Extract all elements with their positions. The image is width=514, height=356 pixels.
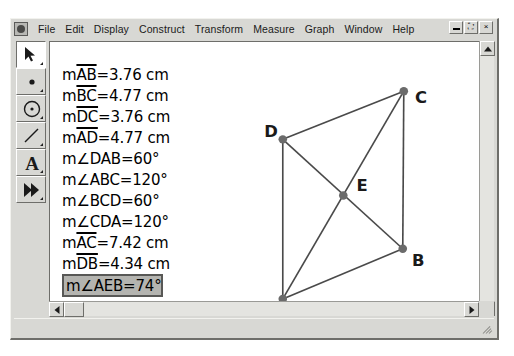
label-e[interactable]: E bbox=[357, 176, 368, 195]
point-e[interactable] bbox=[339, 191, 348, 199]
measure-object: CDA bbox=[90, 213, 121, 231]
point-b[interactable] bbox=[398, 245, 407, 253]
segment-ab[interactable] bbox=[283, 249, 403, 299]
measure-value: 3.76 cm bbox=[109, 66, 169, 84]
measure-value: 74° bbox=[135, 277, 161, 295]
tool-expand-corner-icon bbox=[40, 89, 43, 92]
menu-window[interactable]: Window bbox=[339, 22, 387, 36]
measurement-bc[interactable]: mBC = 4.77 cm bbox=[62, 85, 227, 106]
measure-prefix: m bbox=[62, 66, 76, 84]
vertical-scrollbar[interactable] bbox=[479, 41, 494, 316]
measurement-dc[interactable]: mDC = 3.76 cm bbox=[62, 106, 227, 127]
tool-expand-corner-icon bbox=[40, 143, 43, 146]
measure-prefix: m bbox=[66, 277, 80, 295]
measurement-dab[interactable]: m∠DAB = 60° bbox=[62, 148, 227, 169]
scroll-up-button[interactable] bbox=[480, 41, 495, 56]
sketchpad-app-icon[interactable] bbox=[14, 22, 28, 36]
equals-sign: = bbox=[97, 234, 109, 252]
measurement-bcd[interactable]: m∠BCD = 60° bbox=[62, 190, 227, 211]
minimize-button[interactable] bbox=[449, 21, 463, 34]
measure-value: 4.77 cm bbox=[110, 129, 170, 147]
resize-grip[interactable] bbox=[480, 321, 493, 334]
measure-object: AD bbox=[76, 129, 97, 147]
menu-bar: FileEditDisplayConstructTransformMeasure… bbox=[11, 19, 497, 38]
scroll-left-button[interactable] bbox=[49, 302, 64, 317]
equals-sign: = bbox=[123, 277, 135, 295]
menu-file[interactable]: File bbox=[33, 22, 60, 36]
equals-sign: = bbox=[121, 213, 133, 231]
scroll-up-arrow-icon bbox=[484, 46, 492, 51]
window-controls: ⛶ × bbox=[449, 21, 493, 34]
segment-bc[interactable] bbox=[403, 91, 404, 249]
sketch-canvas-area[interactable]: ABCDE mAB = 3.76 cmmBC = 4.77 cmmDC = 3.… bbox=[49, 41, 494, 316]
horizontal-scrollbar[interactable] bbox=[49, 301, 479, 316]
scroll-right-button[interactable] bbox=[464, 302, 479, 317]
custom-tool[interactable] bbox=[16, 176, 46, 203]
measure-prefix: m bbox=[62, 171, 76, 189]
segment-cd[interactable] bbox=[283, 91, 404, 139]
point-tool[interactable] bbox=[16, 68, 46, 95]
measurement-ab[interactable]: mAB = 3.76 cm bbox=[62, 64, 227, 85]
measure-value: 4.77 cm bbox=[109, 87, 169, 105]
measurement-ad[interactable]: mAD = 4.77 cm bbox=[62, 127, 227, 148]
equals-sign: = bbox=[121, 150, 133, 168]
measure-prefix: m bbox=[62, 213, 76, 231]
svg-text:A: A bbox=[25, 153, 39, 174]
point-d[interactable] bbox=[278, 135, 287, 143]
equals-sign: = bbox=[97, 66, 109, 84]
close-icon: × bbox=[480, 21, 492, 32]
point-c[interactable] bbox=[399, 87, 408, 95]
menu-edit[interactable]: Edit bbox=[60, 22, 89, 36]
tool-expand-corner-icon bbox=[40, 116, 43, 119]
measurement-abc[interactable]: m∠ABC = 120° bbox=[62, 169, 227, 190]
menu-transform[interactable]: Transform bbox=[190, 22, 248, 36]
equals-sign: = bbox=[98, 108, 110, 126]
measure-object: DB bbox=[76, 255, 97, 273]
compass-tool[interactable] bbox=[16, 95, 46, 122]
measurement-ac[interactable]: mAC = 7.42 cm bbox=[62, 232, 227, 253]
measurement-list: mAB = 3.76 cmmBC = 4.77 cmmDC = 3.76 cmm… bbox=[62, 64, 227, 297]
measure-object: AB bbox=[76, 66, 96, 84]
menu-item-list: FileEditDisplayConstructTransformMeasure… bbox=[33, 22, 419, 36]
measure-value: 60° bbox=[133, 150, 159, 168]
measure-prefix: m bbox=[62, 129, 76, 147]
measurement-db[interactable]: mDB = 4.34 cm bbox=[62, 253, 227, 274]
tool-expand-corner-icon bbox=[40, 62, 43, 65]
measure-object: ABC bbox=[90, 171, 120, 189]
menu-graph[interactable]: Graph bbox=[300, 22, 340, 36]
label-d[interactable]: D bbox=[264, 123, 278, 142]
restore-button[interactable]: ⛶ bbox=[464, 21, 478, 34]
equals-sign: = bbox=[98, 255, 110, 273]
menu-display[interactable]: Display bbox=[89, 22, 134, 36]
close-button[interactable]: × bbox=[479, 21, 493, 34]
horizontal-scroll-thumb[interactable] bbox=[64, 302, 84, 317]
measure-value: 60° bbox=[134, 192, 160, 210]
measure-prefix: m bbox=[62, 108, 76, 126]
measure-object: AEB bbox=[94, 277, 123, 295]
equals-sign: = bbox=[98, 129, 110, 147]
equals-sign: = bbox=[121, 192, 133, 210]
restore-icon: ⛶ bbox=[465, 21, 477, 32]
measurement-aeb[interactable]: m∠AEB = 74° bbox=[62, 274, 163, 297]
menu-measure[interactable]: Measure bbox=[248, 22, 300, 36]
menu-construct[interactable]: Construct bbox=[134, 22, 190, 36]
measure-object: DC bbox=[76, 108, 98, 126]
straightedge-tool[interactable] bbox=[16, 122, 46, 149]
measure-prefix: m bbox=[62, 87, 76, 105]
measure-object: BC bbox=[76, 87, 96, 105]
measure-object: DAB bbox=[90, 150, 121, 168]
application-window: FileEditDisplayConstructTransformMeasure… bbox=[10, 18, 499, 340]
label-c[interactable]: C bbox=[415, 88, 427, 107]
measure-value: 3.76 cm bbox=[110, 108, 170, 126]
menu-help[interactable]: Help bbox=[387, 22, 419, 36]
scroll-left-arrow-icon bbox=[54, 306, 59, 314]
label-b[interactable]: B bbox=[412, 251, 425, 270]
measure-value: 7.42 cm bbox=[109, 234, 169, 252]
text-tool[interactable]: A bbox=[16, 149, 46, 176]
scroll-right-arrow-icon bbox=[469, 306, 474, 314]
measurement-cda[interactable]: m∠CDA = 120° bbox=[62, 211, 227, 232]
scrollbar-corner bbox=[479, 301, 494, 316]
selection-arrow-tool[interactable] bbox=[16, 41, 46, 68]
measure-value: 120° bbox=[132, 171, 167, 189]
measure-object: AC bbox=[76, 234, 96, 252]
